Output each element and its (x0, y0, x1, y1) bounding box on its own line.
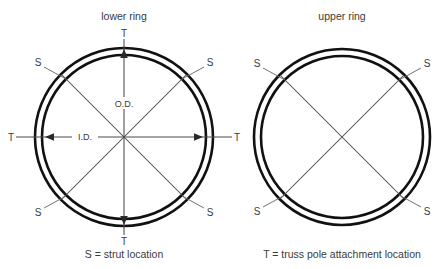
lower-ring-strut-label-se: S (207, 207, 214, 218)
diagram-canvas: lower ring O.D. I.D. T T T T S S S S (0, 0, 438, 269)
lower-ring-truss-label-top: T (121, 28, 127, 39)
upper-ring-strut-label-se: S (424, 206, 431, 217)
strut-legend-caption: S = strut location (85, 248, 164, 260)
od-arrow-bottom (120, 216, 128, 225)
lower-ring-strut-label-nw: S (35, 57, 42, 68)
upper-ring-strut-label-sw: S (254, 206, 261, 217)
od-arrow-top (120, 49, 128, 58)
od-label: O.D. (115, 99, 134, 109)
upper-ring-group: upper ring S S S S (254, 10, 431, 225)
upper-ring-title: upper ring (318, 10, 365, 22)
lower-ring-truss-label-right: T (234, 132, 240, 143)
id-arrow-right (194, 133, 203, 141)
lower-ring-truss-label-bottom: T (121, 236, 127, 247)
id-label: I.D. (78, 132, 92, 142)
lower-ring-group: lower ring O.D. I.D. T T T T S S S S (8, 10, 240, 247)
lower-ring-strut-label-sw: S (35, 207, 42, 218)
lower-ring-truss-label-left: T (8, 132, 14, 143)
truss-legend-caption: T = truss pole attachment location (263, 248, 421, 260)
id-arrow-left (45, 133, 54, 141)
lower-ring-title: lower ring (101, 10, 147, 22)
upper-ring-strut-label-ne: S (424, 58, 431, 69)
lower-ring-strut-label-ne: S (207, 57, 214, 68)
upper-ring-strut-label-nw: S (254, 58, 261, 69)
